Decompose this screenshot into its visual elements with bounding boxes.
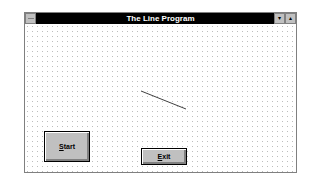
maximize-button[interactable]: ▴ [285, 13, 296, 24]
window-title: The Line Program [25, 13, 296, 24]
exit-label: xit [162, 153, 170, 160]
start-label: tart [64, 143, 75, 150]
main-window: The Line Program ▾ ▴ Start Exit [24, 12, 297, 173]
start-button[interactable]: Start [44, 131, 90, 162]
minimize-icon: ▾ [278, 15, 281, 21]
title-bar[interactable]: The Line Program ▾ ▴ [25, 13, 296, 24]
maximize-icon: ▴ [289, 15, 292, 21]
minimize-button[interactable]: ▾ [274, 13, 285, 24]
exit-button[interactable]: Exit [141, 148, 187, 165]
drawn-line [141, 91, 186, 109]
form-client-area: Start Exit [25, 24, 296, 172]
